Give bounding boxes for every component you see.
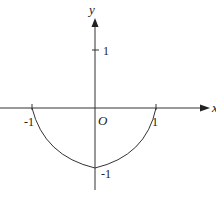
y-axis-label: y	[87, 2, 95, 17]
x-axis-arrow-icon	[200, 105, 210, 112]
tick-label-x-neg: -1	[24, 115, 34, 129]
tick-label-y-pos: 1	[103, 44, 109, 58]
x-axis-label: x	[211, 100, 216, 115]
tick-label-x-pos: 1	[152, 115, 158, 129]
coordinate-diagram: y x O -1 1 1 -1	[0, 0, 216, 199]
y-axis-arrow-icon	[92, 18, 99, 27]
curve-left-arc	[32, 108, 95, 168]
origin-label: O	[98, 113, 108, 128]
tick-label-y-neg: -1	[101, 167, 111, 181]
